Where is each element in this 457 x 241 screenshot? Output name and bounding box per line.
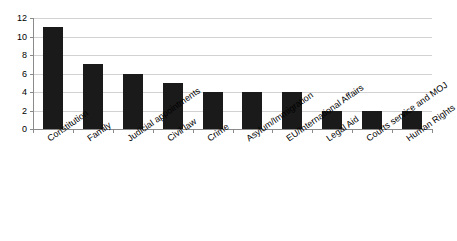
y-tick-label: 12: [17, 14, 27, 23]
bar: [123, 74, 143, 130]
y-tick-label: 10: [17, 32, 27, 41]
y-tick-label: 6: [22, 69, 27, 78]
x-tick-mark: [33, 129, 34, 133]
gridline: [33, 37, 432, 38]
y-tick-label: 8: [22, 51, 27, 60]
x-tick-mark: [312, 129, 313, 133]
x-tick-mark: [432, 129, 433, 133]
y-axis-line: [33, 18, 34, 130]
x-tick-mark: [113, 129, 114, 133]
x-tick-mark: [193, 129, 194, 133]
y-tick-label: 0: [22, 125, 27, 134]
gridline: [33, 18, 432, 19]
bar: [43, 27, 63, 129]
x-tick-mark: [352, 129, 353, 133]
x-tick-mark: [233, 129, 234, 133]
y-tick-label: 4: [22, 88, 27, 97]
x-tick-mark: [153, 129, 154, 133]
plot-area: 024681012: [33, 18, 432, 129]
x-tick-mark: [272, 129, 273, 133]
gridline: [33, 55, 432, 56]
x-tick-mark: [73, 129, 74, 133]
bar: [203, 92, 223, 129]
x-tick-mark: [392, 129, 393, 133]
y-tick-label: 2: [22, 106, 27, 115]
bar: [83, 64, 103, 129]
